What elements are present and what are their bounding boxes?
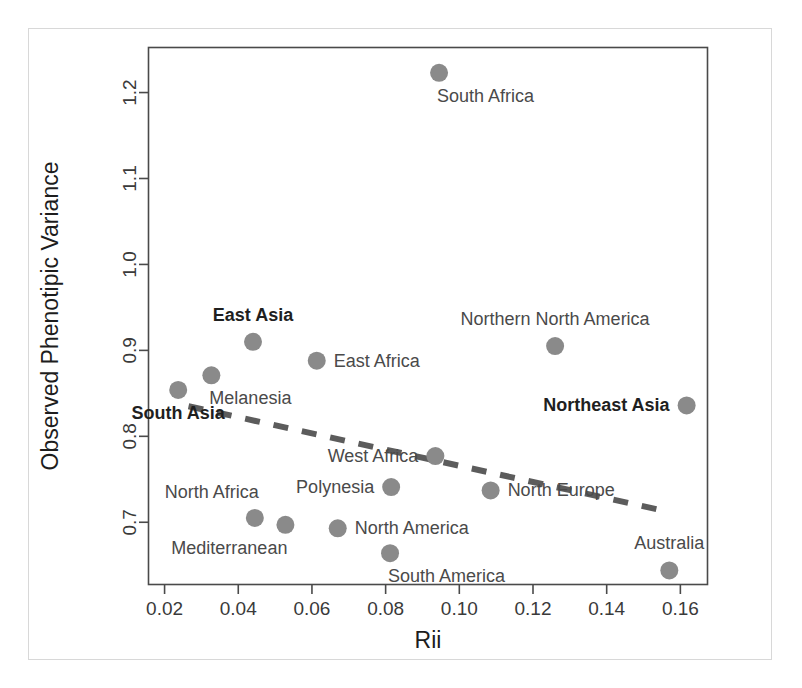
y-axis-title: Observed Phenotipic Variance xyxy=(37,162,63,471)
data-point-label: Northern North America xyxy=(461,309,651,329)
data-point-label: Polynesia xyxy=(296,477,375,497)
y-tick-label: 0.9 xyxy=(119,337,140,363)
data-point xyxy=(329,519,347,537)
data-point-label: South Africa xyxy=(437,86,535,106)
data-point-label: South Asia xyxy=(132,403,226,423)
data-point xyxy=(381,544,399,562)
data-point-label: Northeast Asia xyxy=(543,395,670,415)
x-tick-label: 0.04 xyxy=(220,598,257,619)
data-point xyxy=(244,333,262,351)
x-tick-label: 0.06 xyxy=(293,598,330,619)
x-tick-label: 0.12 xyxy=(515,598,552,619)
data-point xyxy=(426,447,444,465)
data-point-label: North America xyxy=(355,518,470,538)
data-point-label: East Asia xyxy=(213,305,294,325)
scatter-plot: 0.70.80.91.01.11.2 0.020.040.060.080.100… xyxy=(0,0,802,688)
data-point xyxy=(382,478,400,496)
data-point-label: Australia xyxy=(634,533,705,553)
data-point-label: East Africa xyxy=(334,351,421,371)
x-axis-title: Rii xyxy=(415,627,442,653)
data-point-label: Mediterranean xyxy=(171,538,287,558)
data-point xyxy=(546,337,564,355)
data-point xyxy=(660,561,678,579)
data-point xyxy=(276,516,294,534)
x-tick-label: 0.16 xyxy=(662,598,699,619)
data-point xyxy=(678,396,696,414)
data-point xyxy=(430,64,448,82)
data-point-labels: South AfricaEast AsiaNorthern North Amer… xyxy=(132,86,706,586)
x-axis-ticks xyxy=(165,585,681,594)
y-axis-ticks xyxy=(139,93,148,523)
x-axis-tick-labels: 0.020.040.060.080.100.120.140.16 xyxy=(146,598,699,619)
data-point-label: North Europe xyxy=(508,480,615,500)
x-tick-label: 0.08 xyxy=(367,598,404,619)
x-tick-label: 0.10 xyxy=(441,598,478,619)
figure-page: 0.70.80.91.01.11.2 0.020.040.060.080.100… xyxy=(0,0,802,688)
x-tick-label: 0.02 xyxy=(146,598,183,619)
data-point xyxy=(246,509,264,527)
x-tick-label: 0.14 xyxy=(588,598,625,619)
data-point xyxy=(308,352,326,370)
data-point-label: North Africa xyxy=(165,482,260,502)
y-axis-tick-labels: 0.70.80.91.01.11.2 xyxy=(119,79,140,535)
y-tick-label: 1.0 xyxy=(119,251,140,277)
data-point xyxy=(169,381,187,399)
data-point xyxy=(482,481,500,499)
y-tick-label: 0.8 xyxy=(119,423,140,449)
y-tick-label: 1.2 xyxy=(119,79,140,105)
y-tick-label: 1.1 xyxy=(119,165,140,191)
data-point-label: West Africa xyxy=(328,446,420,466)
data-point-label: South America xyxy=(388,566,506,586)
data-point xyxy=(202,366,220,384)
y-tick-label: 0.7 xyxy=(119,509,140,535)
